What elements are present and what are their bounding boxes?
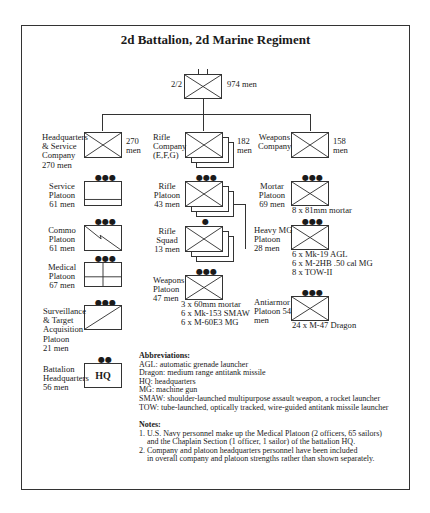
- weapons-company-strength: 158men: [333, 137, 348, 155]
- battalion-strength: 974 men: [227, 80, 257, 89]
- medical-platoon-symbol: [84, 262, 122, 287]
- hq-company-label: Headquarters& ServiceCompany270 men: [42, 133, 88, 170]
- notes-block: Notes: 1. U.S. Navy personnel make up th…: [139, 421, 382, 464]
- hq-company-symbol: [84, 132, 122, 158]
- rifle-platoon-symbol: [185, 181, 223, 207]
- connector: [203, 99, 204, 115]
- rifle-squad-symbol: [185, 226, 223, 252]
- battalion-hq-label: BattalionHeadquarters56 men: [43, 365, 89, 393]
- rifle-platoon-label: RiflePlatoon43 men: [150, 182, 184, 210]
- rifle-company-symbol: [185, 132, 223, 158]
- mortar-platoon-symbol: [291, 181, 329, 206]
- weapons-platoon-equipment: 3 x 60mm mortar6 x Mk-153 SMAW6 x M-60E3…: [181, 300, 250, 328]
- antiarmor-platoon-equipment: 24 x M-47 Dragon: [292, 321, 356, 330]
- connector: [245, 204, 246, 249]
- mortar-platoon-label: MortarPlatoon69 men: [254, 182, 290, 210]
- medical-platoon-label: MedicalPlatoon67 men: [40, 263, 84, 291]
- abbreviations-heading: Abbreviations: [139, 351, 187, 360]
- mortar-platoon-equipment: 8 x 81mm mortar: [292, 206, 352, 215]
- heavy-mg-platoon-label: Heavy MGPlatoon28 men: [254, 226, 292, 254]
- battalion-designation: 2/2: [171, 80, 182, 89]
- weapons-platoon-label: WeaponsPlatoon47 men: [153, 276, 184, 304]
- rifle-company-strength: 182men: [237, 137, 252, 155]
- weapons-company-label: WeaponsCompany: [258, 133, 290, 151]
- antiarmor-platoon-symbol: [291, 296, 329, 321]
- weapons-company-symbol: [291, 132, 329, 158]
- service-platoon-label: ServicePlatoon61 men: [40, 182, 84, 210]
- antiarmor-platoon-label: AntiarmorPlatoon 54men: [254, 298, 291, 326]
- connector: [203, 114, 204, 131]
- note-item-cont: in overall company and platoon strengths…: [139, 455, 382, 464]
- heavy-mg-platoon-equipment: 6 x Mk-19 AGL6 x M-2HB .50 cal MG8 x TOW…: [292, 250, 373, 278]
- sta-platoon-label: Surveillance& TargetAcquisitionPlatoon21…: [43, 307, 86, 353]
- sta-platoon-symbol: [84, 305, 122, 330]
- connector: [310, 114, 311, 131]
- weapons-platoon-symbol: [185, 275, 223, 300]
- connector: [102, 114, 311, 115]
- commo-platoon-label: CommoPlatoon61 men: [40, 226, 84, 254]
- rifle-company-label: RifleCompany(E,F,G): [153, 133, 186, 161]
- hq-company-strength: 270men: [126, 137, 141, 155]
- battalion-hq-symbol: HQ: [84, 363, 122, 388]
- abbreviations-block: Abbreviations: AGL: automatic grenade la…: [139, 352, 388, 412]
- battalion-symbol: [184, 74, 222, 99]
- echelon-dots: ●: [202, 218, 209, 226]
- abbreviation-item: TOW: tube-launched, optically tracked, w…: [139, 404, 388, 413]
- connector: [102, 114, 103, 131]
- commo-platoon-symbol: [84, 225, 122, 251]
- heavy-mg-platoon-symbol: [291, 225, 329, 250]
- service-platoon-symbol: [84, 181, 122, 206]
- rifle-squad-label: RifleSquad13 men: [150, 227, 184, 255]
- notes-heading: Notes: [139, 420, 158, 429]
- diagram-title: 2d Battalion, 2d Marine Regiment: [21, 32, 410, 48]
